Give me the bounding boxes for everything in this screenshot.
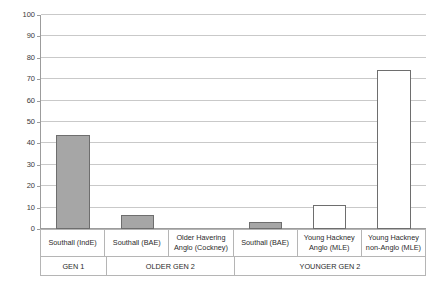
bar-slot [41, 15, 105, 229]
y-axis-tick-label: 40 [27, 140, 35, 148]
bar-chart: 0102030405060708090100 Southall (IndE)So… [0, 0, 443, 286]
y-axis-tick-label: 20 [27, 182, 35, 190]
bar-slot [234, 15, 298, 229]
y-axis-tick-label: 10 [27, 204, 35, 212]
x-axis-category-label: Young Hackney Anglo (MLE) [298, 230, 362, 256]
y-axis-tick-label: 90 [27, 33, 35, 41]
plot-area: 0102030405060708090100 [40, 15, 426, 229]
x-axis-category-label: Southall (BAE) [234, 230, 298, 256]
group-label-row: GEN 1OLDER GEN 2YOUNGER GEN 2 [40, 257, 426, 276]
y-axis-tick-label: 80 [27, 54, 35, 62]
bar-slot [105, 15, 169, 229]
bar[interactable] [249, 222, 282, 229]
x-axis-category-label: Older Havering Anglo (Cockney) [169, 230, 233, 256]
x-axis-group-label: OLDER GEN 2 [107, 257, 235, 275]
category-label-row: Southall (IndE)Southall (BAE)Older Haver… [40, 229, 426, 257]
x-axis-category-label: Southall (IndE) [41, 230, 105, 256]
bar-slot [362, 15, 426, 229]
bar[interactable] [121, 215, 154, 229]
x-axis-group-label: GEN 1 [41, 257, 107, 275]
y-axis-tick-label: 30 [27, 161, 35, 169]
plot-area-wrapper: 0102030405060708090100 [40, 15, 426, 229]
y-axis-tick-label: 50 [27, 118, 35, 126]
y-axis-tick-label: 60 [27, 97, 35, 105]
bar[interactable] [313, 205, 346, 229]
bar-slot [169, 15, 233, 229]
y-axis-tick-label: 70 [27, 75, 35, 83]
x-axis-group-label: YOUNGER GEN 2 [235, 257, 426, 275]
x-axis-labels: Southall (IndE)Southall (BAE)Older Haver… [40, 229, 426, 276]
bar[interactable] [56, 135, 89, 229]
y-axis-tick-label: 100 [22, 11, 35, 19]
x-axis-category-label: Southall (BAE) [105, 230, 169, 256]
bar-slot [298, 15, 362, 229]
bar[interactable] [377, 70, 410, 229]
bars-group [41, 15, 426, 229]
x-axis-category-label: Young Hackney non-Anglo (MLE) [362, 230, 426, 256]
y-axis-tick-label: 0 [31, 225, 35, 233]
